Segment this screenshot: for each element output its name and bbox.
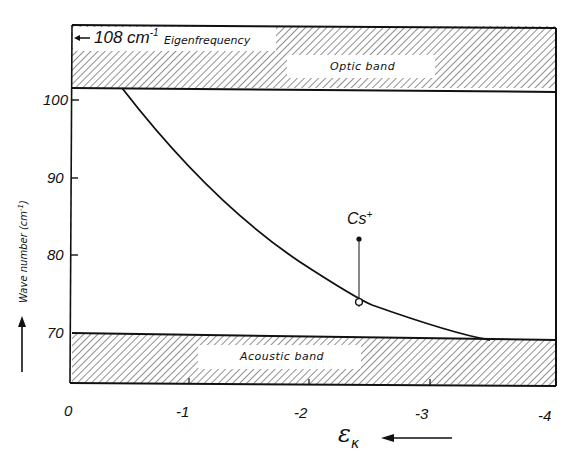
y-axis-label: Wave number (cm-1) — [17, 200, 29, 303]
x-tick-minus3: -3 — [415, 405, 428, 422]
optic-band-label: Optic band — [330, 60, 395, 73]
eigenfrequency-label: Eigenfrequency — [164, 34, 250, 47]
x-tick-minus2: -2 — [294, 404, 307, 421]
y-tick-80: 80 — [47, 246, 64, 263]
x-tick-minus4: -4 — [538, 407, 551, 424]
x-tick-0: 0 — [64, 402, 72, 419]
x-axis-label: εκ — [338, 420, 359, 451]
frequency-curve — [122, 88, 490, 340]
acoustic-band-label: Acoustic band — [240, 350, 324, 363]
y-tick-100: 100 — [43, 91, 68, 108]
x-tick-minus1: -1 — [176, 403, 189, 420]
x-axis-arrow — [381, 434, 452, 442]
y-tick-90: 90 — [47, 169, 64, 186]
cs-label: Cs+ — [347, 209, 372, 228]
chart-canvas — [0, 0, 564, 461]
y-axis-arrow — [18, 316, 26, 372]
eigenfrequency-value: 108 cm-1 — [94, 27, 159, 48]
y-tick-70: 70 — [47, 324, 64, 341]
